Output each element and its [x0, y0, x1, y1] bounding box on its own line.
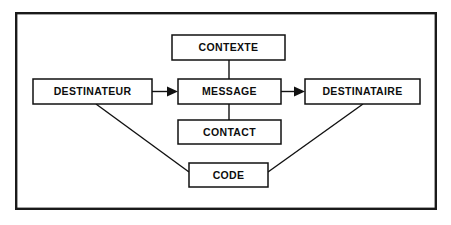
node-destinateur-label: DESTINATEUR — [54, 85, 132, 97]
node-contact[interactable]: CONTACT — [178, 120, 281, 144]
node-destinataire-label: DESTINATAIRE — [322, 85, 402, 97]
node-message[interactable]: MESSAGE — [178, 79, 281, 104]
node-contexte[interactable]: CONTEXTE — [172, 35, 285, 60]
node-destinataire[interactable]: DESTINATAIRE — [305, 79, 420, 104]
node-code-label: CODE — [213, 169, 245, 181]
node-message-label: MESSAGE — [202, 85, 257, 97]
node-destinateur[interactable]: DESTINATEUR — [33, 79, 152, 104]
communication-schema-diagram: CONTEXTE DESTINATEUR MESSAGE DESTINATAIR… — [0, 0, 451, 225]
node-contact-label: CONTACT — [203, 126, 256, 138]
node-contexte-label: CONTEXTE — [199, 41, 259, 53]
diagram-canvas: CONTEXTE DESTINATEUR MESSAGE DESTINATAIR… — [0, 0, 451, 225]
node-code[interactable]: CODE — [189, 163, 268, 187]
